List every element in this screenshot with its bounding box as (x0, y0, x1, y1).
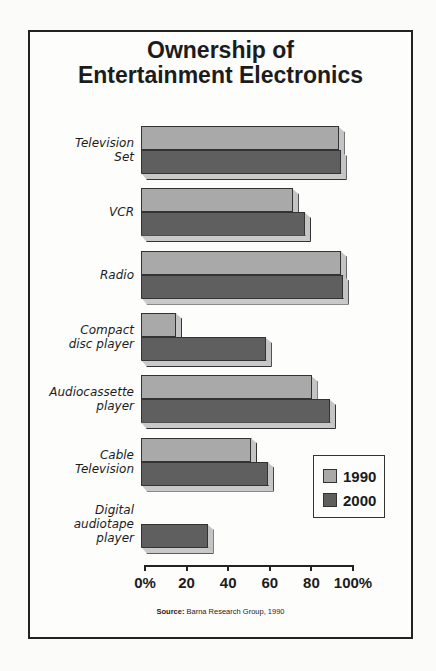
source-label: Source: (156, 607, 184, 616)
category-label: TelevisionSet (34, 136, 134, 164)
category-label: CableTelevision (34, 448, 134, 476)
source-note: Source: Barna Research Group, 1990 (28, 607, 413, 616)
bar-2000 (141, 212, 305, 236)
x-tick (310, 565, 312, 571)
bar-bottom-face (141, 547, 214, 554)
category-label-line: Cable (34, 448, 134, 462)
bar-bottom-face (141, 235, 311, 242)
category-label: VCR (34, 205, 134, 219)
category-label-line: VCR (34, 205, 134, 219)
title-line-1: Ownership of (28, 38, 413, 63)
bar-2000 (141, 462, 268, 486)
x-tick-label: 100% (328, 574, 378, 591)
legend-label-1990: 1990 (343, 468, 376, 485)
bar-1990 (141, 188, 293, 212)
x-tick (352, 565, 354, 571)
category-label-line: Compact (34, 323, 134, 337)
bar-1990 (141, 251, 341, 275)
legend-item-1990: 1990 (323, 468, 376, 484)
bar-1990 (141, 438, 251, 462)
category-label: Compactdisc player (34, 323, 134, 351)
category-label-line: player (34, 399, 134, 413)
bar-bottom-face (141, 422, 336, 429)
bar-2000 (141, 275, 343, 299)
bar-1990 (141, 126, 339, 150)
bar-2000 (141, 399, 330, 423)
category-label-line: Digital (34, 503, 134, 517)
category-label: Audiocassetteplayer (34, 385, 134, 413)
legend: 1990 2000 (313, 455, 385, 518)
legend-item-2000: 2000 (323, 492, 376, 508)
x-tick (269, 565, 271, 571)
x-axis (145, 565, 353, 567)
title-line-2: Entertainment Electronics (28, 63, 413, 88)
category-label-line: Set (34, 150, 134, 164)
source-text: Barna Research Group, 1990 (187, 607, 285, 616)
bar-bottom-face (141, 173, 347, 180)
bar-1990 (141, 313, 176, 337)
chart-title: Ownership of Entertainment Electronics (28, 38, 413, 88)
category-label-line: Audiocassette (34, 385, 134, 399)
x-tick (227, 565, 229, 571)
bar-2000 (141, 150, 341, 174)
legend-swatch-1990 (323, 469, 337, 483)
x-tick (144, 565, 146, 571)
category-label-line: Television (34, 136, 134, 150)
category-label-line: player (34, 531, 134, 545)
bar-2000 (141, 337, 266, 361)
bar-2000 (141, 524, 208, 548)
bar-bottom-face (141, 298, 349, 305)
bar-bottom-face (141, 485, 274, 492)
category-label-line: disc player (34, 337, 134, 351)
category-label-line: Television (34, 462, 134, 476)
category-label-line: Radio (34, 268, 134, 282)
category-label-line: audiotape (34, 517, 134, 531)
category-label: Digitalaudiotapeplayer (34, 503, 134, 545)
bar-bottom-face (141, 360, 272, 367)
category-label: Radio (34, 268, 134, 282)
legend-label-2000: 2000 (343, 492, 376, 509)
bar-1990 (141, 375, 312, 399)
x-tick (186, 565, 188, 571)
legend-swatch-2000 (323, 493, 337, 507)
